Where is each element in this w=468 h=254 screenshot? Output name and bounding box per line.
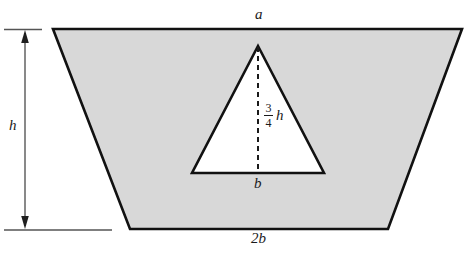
fraction-denominator: 4 (265, 117, 273, 129)
geometry-figure: a h b 2b 3 4 h (0, 0, 468, 254)
label-height-h: h (9, 118, 17, 133)
dimension-arrowhead-up (21, 30, 29, 43)
fraction-three-fourths: 3 4 (264, 102, 273, 129)
fraction-variable-h: h (276, 108, 284, 123)
label-inner-base-b: b (254, 176, 262, 191)
label-bottom-side-2b: 2b (251, 231, 266, 246)
dimension-arrowhead-down (21, 216, 29, 229)
fraction-numerator: 3 (265, 102, 273, 114)
figure-canvas (0, 0, 468, 254)
label-top-side-a: a (255, 7, 263, 22)
label-inner-height-three-quarters-h: 3 4 h (264, 102, 284, 129)
